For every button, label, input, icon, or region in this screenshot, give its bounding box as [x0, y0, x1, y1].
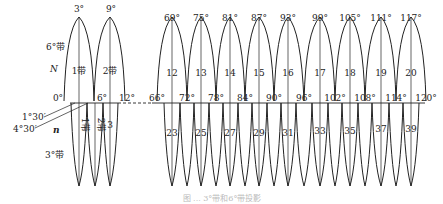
boundary-label: 12° [119, 93, 135, 103]
three-degree-zone-number: 31 [282, 128, 293, 138]
meridian-label: 93° [280, 13, 296, 23]
six-degree-zone-number: 19 [375, 68, 387, 78]
boundary-label: 90° [266, 93, 282, 103]
six-degree-zone-number: 1带 [72, 66, 87, 76]
boundary-label: 0° [53, 93, 63, 103]
six-degree-spindles-left [64, 17, 125, 103]
six-degree-zone-number: 2带 [103, 66, 118, 76]
three-degree-zone-number: 33 [314, 126, 326, 136]
three-degree-zone-number: 29 [253, 128, 265, 138]
three-degree-zone-number: 2带 [96, 118, 106, 133]
six-degree-zone-label: 6°带 [46, 42, 65, 52]
six-degree-zone-number: 13 [195, 68, 207, 78]
meridian-label: 81° [222, 13, 238, 23]
figure-caption: 图 ... 3°带和6°带投影 [183, 193, 262, 203]
boundary-label: 102° [324, 93, 346, 103]
meridian-label: 75° [193, 13, 209, 23]
meridian-label: 87° [251, 13, 267, 23]
six-degree-zone-number: 15 [253, 68, 265, 78]
boundary-label: 96° [296, 93, 312, 103]
six-degree-zone-number: 14 [224, 68, 236, 78]
boundary-label: 114° [385, 93, 407, 103]
boundary-label: 84° [237, 93, 253, 103]
meridian-label: 111° [370, 13, 392, 23]
three-degree-zone-number: 23 [166, 128, 178, 138]
three-degree-zone-number: 39 [405, 124, 417, 134]
three-degree-zone-number: 37 [375, 124, 387, 134]
three-degree-zone-number: 35 [344, 126, 356, 136]
six-degree-zone-number: 18 [344, 68, 356, 78]
three-degree-spindles-left [71, 103, 118, 186]
meridian-label: 117° [400, 13, 422, 23]
three-degree-spindles-right [164, 103, 419, 186]
three-degree-zone-number: 1带 [80, 118, 90, 133]
meridian-label: 99° [312, 13, 328, 23]
boundary-label: 6° [97, 93, 107, 103]
three-degree-zone-number: 27 [224, 128, 236, 138]
boundary-label: 108° [354, 93, 376, 103]
six-degree-zone-number: 20 [405, 68, 417, 78]
gauss-zone-diagram: 3° 9° 69° 75° 81° 87° 93° 99° 105° 111° … [0, 0, 443, 204]
boundary-label: 78° [208, 93, 224, 103]
offset-label-2: 4°30′ [13, 124, 37, 134]
meridian-label: 9° [106, 4, 116, 14]
six-degree-zone-number: 16 [282, 68, 294, 78]
boundary-label: 72° [179, 93, 195, 103]
three-degree-zone-label: 3°带 [45, 150, 64, 160]
six-degree-spindles-right [157, 17, 426, 103]
meridian-label: 3° [74, 4, 84, 14]
six-degree-zone-number: 17 [314, 68, 326, 78]
three-degree-zone-number: 3 [107, 120, 113, 130]
six-degree-zone-number: 12 [166, 68, 177, 78]
meridian-label: 69° [164, 13, 180, 23]
six-degree-symbol: N [49, 64, 59, 74]
three-degree-symbol: n [53, 125, 60, 135]
boundary-label: 120° [415, 93, 437, 103]
three-degree-zone-number: 25 [195, 128, 207, 138]
boundary-label: 66° [149, 93, 165, 103]
meridian-label: 105° [339, 13, 361, 23]
offset-label-1: 1°30′ [22, 112, 46, 122]
